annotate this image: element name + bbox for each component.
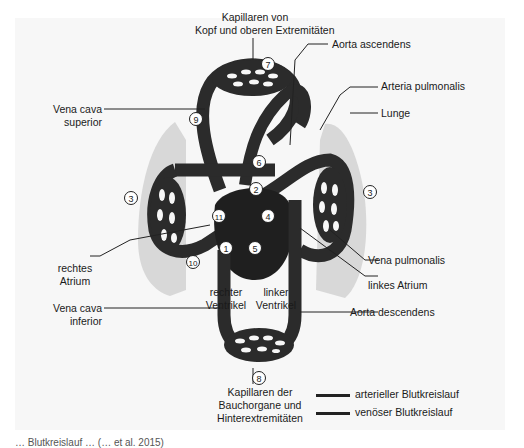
svg-text:10: 10 [189, 259, 198, 268]
label-rechtes-atrium-line2: Atrium [55, 275, 95, 288]
svg-text:5: 5 [252, 244, 257, 254]
head-capillaries [212, 60, 292, 96]
number-6: 6 [253, 156, 266, 169]
label-aorta-descendens: Aorta descendens [350, 306, 435, 319]
number-11: 11 [213, 210, 226, 223]
svg-text:4: 4 [265, 212, 270, 222]
number-7: 7 [262, 58, 275, 71]
label-vena-cava-superior-line2: superior [40, 116, 102, 129]
label-rechter-ventrikel-line1: rechter [200, 286, 252, 299]
label-kapillaren-kopf: Kapillaren von Kopf und oberen Extremitä… [195, 11, 315, 37]
number-1: 1 [220, 242, 233, 255]
svg-text:3: 3 [128, 194, 133, 204]
figure-caption: … Blutkreislauf … (… et al. 2015) [15, 437, 164, 448]
label-vena-cava-superior: Vena cava superior [40, 103, 102, 129]
label-vena-cava-inferior-line2: inferior [40, 315, 102, 328]
svg-text:7: 7 [265, 60, 270, 70]
label-kapillaren-kopf-line2: Kopf und oberen Extremitäten [195, 24, 315, 37]
label-kapillaren-bauch-line1: Kapillaren der [200, 386, 320, 399]
svg-text:3: 3 [367, 188, 372, 198]
label-linkes-atrium: linkes Atrium [368, 279, 428, 292]
svg-text:6: 6 [256, 158, 261, 168]
number-3-left: 3 [364, 186, 377, 199]
svg-text:1: 1 [223, 244, 228, 254]
label-kapillaren-bauch: Kapillaren der Bauchorgane und Hinterext… [200, 386, 320, 425]
label-lunge: Lunge [381, 107, 410, 120]
legend-arterial-line [316, 394, 350, 397]
number-8: 8 [253, 372, 266, 385]
svg-text:8: 8 [256, 374, 261, 384]
abdominal-capillaries [224, 328, 294, 362]
left-lung-capillaries [313, 167, 347, 243]
number-10: 10 [187, 256, 200, 269]
label-linker-ventrikel: linker Ventrikel [250, 286, 302, 312]
svg-text:2: 2 [253, 185, 258, 195]
number-5: 5 [249, 242, 262, 255]
label-kapillaren-bauch-line3: Hinterextremitäten [200, 412, 320, 425]
label-linker-ventrikel-line1: linker [250, 286, 302, 299]
label-aorta-ascendens: Aorta ascendens [332, 38, 411, 51]
label-rechtes-atrium-line1: rechtes [55, 262, 95, 275]
label-vena-cava-superior-line1: Vena cava [40, 103, 102, 116]
label-vena-pulmonalis: Vena pulmonalis [368, 254, 445, 267]
svg-text:9: 9 [193, 115, 198, 125]
number-9: 9 [190, 113, 203, 126]
number-2: 2 [250, 183, 263, 196]
label-kapillaren-bauch-line2: Bauchorgane und [200, 399, 320, 412]
label-linker-ventrikel-line2: Ventrikel [250, 299, 302, 312]
number-3-right: 3 [125, 192, 138, 205]
legend-arterial-label: arterieller Blutkreislauf [355, 388, 459, 401]
legend-venous-line [316, 412, 350, 415]
label-rechter-ventrikel: rechter Ventrikel [200, 286, 252, 312]
label-vena-cava-inferior-line1: Vena cava [40, 302, 102, 315]
label-rechter-ventrikel-line2: Ventrikel [200, 299, 252, 312]
label-kapillaren-kopf-line1: Kapillaren von [195, 11, 315, 24]
label-arteria-pulmonalis: Arteria pulmonalis [381, 80, 465, 93]
label-rechtes-atrium: rechtes Atrium [55, 262, 95, 288]
legend-venous-label: venöser Blutkreislauf [355, 406, 452, 419]
label-vena-cava-inferior: Vena cava inferior [40, 302, 102, 328]
right-lung-capillaries [150, 177, 186, 253]
svg-text:11: 11 [215, 213, 224, 222]
number-4: 4 [262, 210, 275, 223]
